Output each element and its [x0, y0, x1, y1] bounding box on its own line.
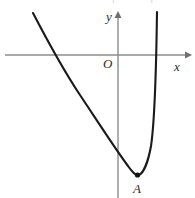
- parabola-curve: [33, 12, 157, 175]
- y-axis-arrowhead: [115, 11, 122, 18]
- x-axis-arrowhead: [185, 52, 192, 59]
- x-axis-label: x: [174, 60, 180, 73]
- y-axis-label: y: [106, 10, 112, 23]
- origin-label: O: [103, 57, 112, 70]
- coordinate-plane-svg: [0, 0, 195, 198]
- parabola-figure: [ , ] y x O A: [0, 0, 195, 198]
- vertex-point-marker: [135, 172, 140, 177]
- point-a-label: A: [133, 182, 141, 195]
